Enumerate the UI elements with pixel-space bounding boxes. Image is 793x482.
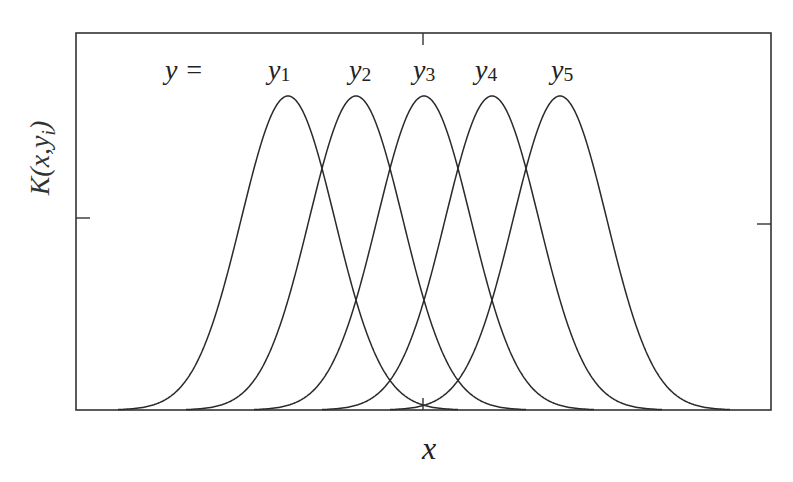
x-axis-label: x (422, 430, 436, 467)
plot-frame (76, 33, 771, 410)
y-axis-label: K(x,yi) (24, 121, 61, 196)
kernel-chart (0, 0, 793, 482)
legend-prefix: y = (165, 54, 203, 86)
curve-y3 (254, 96, 594, 410)
series-label-y1: y1 (268, 54, 290, 86)
curve-y5 (390, 96, 730, 410)
series-label-y5: y5 (551, 54, 573, 86)
curve-y4 (322, 96, 662, 410)
series-label-y3: y3 (413, 54, 435, 86)
series-label-y4: y4 (475, 54, 497, 86)
curve-y1 (118, 96, 458, 410)
series-label-y2: y2 (349, 54, 371, 86)
kernel-curves (118, 96, 730, 410)
curve-y2 (186, 96, 526, 410)
